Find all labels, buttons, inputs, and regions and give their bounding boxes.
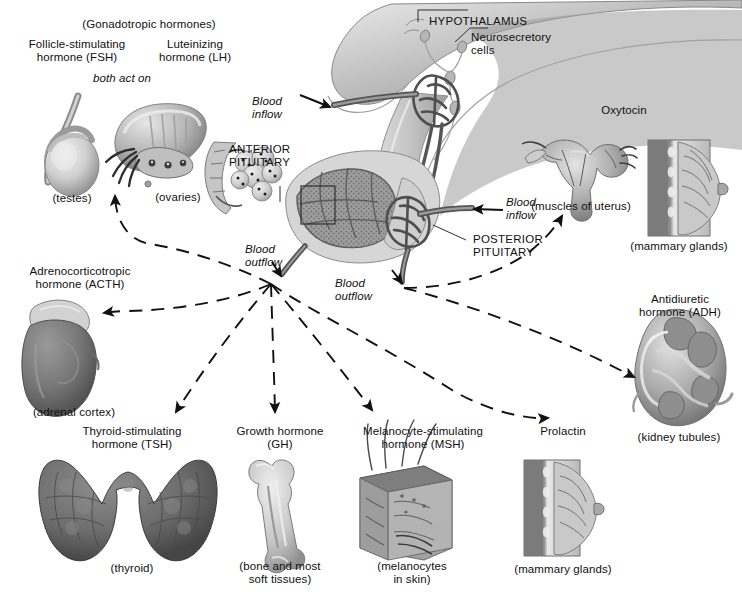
label-adh: Antidiuretic hormone (ADH) <box>623 293 737 319</box>
label-prolactin: Prolactin <box>519 425 607 438</box>
figure-canvas: (Gonadotropic hormones) Follicle-stimula… <box>0 0 742 599</box>
label-posterior-pituitary: POSTERIOR PITUITARY <box>473 233 573 259</box>
label-blood-outflow-anterior: Blood outflow <box>245 243 307 269</box>
anterior-pituitary-dashed-arrows <box>104 196 548 418</box>
label-muscles-of-uterus: (muscles of uterus) <box>519 200 643 213</box>
label-hypothalamus: HYPOTHALAMUS <box>429 15 549 28</box>
label-oxytocin: Oxytocin <box>576 104 672 117</box>
label-kidney-tubules: (kidney tubules) <box>621 431 737 444</box>
label-testes: (testes) <box>32 192 112 205</box>
arrow-to-thyroid <box>176 284 271 412</box>
arrow-to-mammary-prolactin <box>271 284 548 418</box>
label-tsh: Thyroid-stimulating hormone (TSH) <box>56 425 208 451</box>
label-both-act-on: both act on <box>62 72 182 85</box>
label-melanocytes-in-skin: (melanocytes in skin) <box>357 560 467 586</box>
label-lh: Luteinizing hormone (LH) <box>140 38 250 64</box>
arrow-to-bone <box>271 284 275 412</box>
label-fsh: Follicle-stimulating hormone (FSH) <box>12 38 142 64</box>
label-blood-outflow-posterior: Blood outflow <box>335 277 397 303</box>
label-anterior-pituitary: ANTERIOR PITUITARY <box>229 143 329 169</box>
label-blood-inflow-upper: Blood inflow <box>252 95 314 121</box>
label-msh: Melanocyte-stimulating hormone (MSH) <box>337 425 509 451</box>
label-gonadotropic-group: (Gonadotropic hormones) <box>54 18 244 31</box>
label-neurosecretory-cells: Neurosecretory cells <box>471 31 591 57</box>
label-thyroid: (thyroid) <box>92 562 172 575</box>
arrow-to-kidney-adh <box>404 288 634 377</box>
label-mammary-glands-oxytocin: (mammary glands) <box>621 240 737 253</box>
label-mammary-glands-prolactin: (mammary glands) <box>500 563 626 576</box>
label-bone-soft-tissues: (bone and most soft tissues) <box>220 560 340 586</box>
label-ovaries: (ovaries) <box>138 191 218 204</box>
label-adrenal-cortex: (adrenal cortex) <box>14 406 134 419</box>
label-gh: Growth hormone (GH) <box>221 425 339 451</box>
label-acth: Adrenocorticotropic hormone (ACTH) <box>6 265 154 291</box>
